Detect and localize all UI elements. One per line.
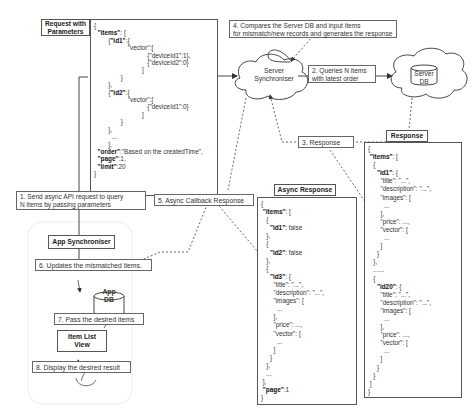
- item-list-line1: Item List: [58, 333, 106, 341]
- request-title-line2: Parameters: [42, 28, 89, 36]
- server-synchroniser: Server Synchroniser: [246, 67, 302, 83]
- code-line: ...: [261, 338, 356, 346]
- item-list-line2: View: [58, 341, 106, 349]
- step3-text: 3. Response: [302, 139, 340, 146]
- response-title-text: Response: [391, 132, 423, 139]
- app-sync-text: App Synchroniser: [52, 238, 111, 245]
- code-line: {"id1":{: [94, 37, 217, 44]
- code-line: ]: [368, 242, 461, 250]
- async-response-title-text: Async Response: [278, 186, 333, 193]
- request-title-line1: Request with: [42, 20, 89, 28]
- code-line: {"id2":{: [94, 89, 217, 96]
- code-line: "items": [: [94, 29, 217, 36]
- step7-label: 7. Pass the desired items: [54, 313, 144, 325]
- code-line: },: [94, 126, 217, 133]
- code-line: "id1": {: [368, 169, 461, 177]
- code-line: ]: [368, 380, 461, 388]
- code-line: "description": "...",: [261, 289, 356, 297]
- code-line: }: [94, 170, 217, 177]
- code-line: {: [368, 145, 461, 153]
- code-line: },: [94, 81, 217, 88]
- step2-line1: 2. Queries N items: [312, 67, 372, 75]
- code-line: },: [261, 362, 356, 370]
- code-line: ]: [368, 355, 461, 363]
- code-line: },: [261, 232, 356, 240]
- code-line: {: [261, 240, 356, 248]
- code-line: }: [94, 74, 217, 81]
- code-line: }: [368, 388, 461, 396]
- code-line: "limit":20: [94, 163, 217, 170]
- code-line: {"deviceId2":0}: [94, 59, 217, 66]
- step2-line2: with latest order: [312, 75, 372, 83]
- code-line: "price": ...,: [368, 218, 461, 226]
- code-line: ...: [368, 202, 461, 210]
- step8-text: 8. Display the desired result: [36, 364, 120, 371]
- step4-line2: for mismatch/new records and generates t…: [233, 30, 393, 38]
- code-line: {: [261, 216, 356, 224]
- code-line: "id20": {: [368, 283, 461, 291]
- code-line: {"deviceId1":1},: [94, 52, 217, 59]
- async-response-title: Async Response: [274, 184, 336, 196]
- code-line: "description": "...",: [368, 299, 461, 307]
- code-line: ],: [94, 141, 217, 148]
- step5-text: 5. Async Callback Response: [158, 197, 244, 204]
- code-line: "vector":[: [94, 44, 217, 51]
- code-line: },: [261, 257, 356, 265]
- code-line: {: [368, 161, 461, 169]
- code-line: }: [368, 250, 461, 258]
- code-line: ],: [368, 210, 461, 218]
- code-line: "images": [: [368, 194, 461, 202]
- code-line: {: [261, 265, 356, 273]
- step8-label: 8. Display the desired result: [32, 361, 131, 373]
- server-db: Server DB: [410, 70, 438, 85]
- step5-label: 5. Async Callback Response: [154, 194, 254, 206]
- response-json-box: { "items": [ { "id1": { "title": "...", …: [364, 142, 462, 398]
- code-line: "vector": [: [368, 226, 461, 234]
- code-line: "price": ...,: [368, 331, 461, 339]
- item-list-view: Item List View: [57, 330, 107, 352]
- code-line: "title": "...",: [261, 281, 356, 289]
- code-line: ...: [261, 370, 356, 378]
- step3-label: 3. Response: [298, 136, 354, 148]
- server-db-line1: Server: [410, 70, 438, 78]
- code-line: "id3": {: [261, 273, 356, 281]
- code-line: },: [368, 258, 461, 266]
- app-db: App DB: [94, 288, 124, 304]
- request-json-code: { "items": [ {"id1":{ "vector":[ {"devic…: [94, 22, 217, 178]
- code-line: ]: [94, 66, 217, 73]
- code-line: }: [261, 394, 356, 402]
- code-line: ...: [94, 133, 217, 140]
- server-sync-line2: Synchroniser: [246, 75, 302, 83]
- code-line: "images": [: [368, 307, 461, 315]
- code-line: ...: [368, 315, 461, 323]
- code-line: ],: [368, 323, 461, 331]
- step7-text: 7. Pass the desired items: [58, 316, 134, 323]
- server-db-line2: DB: [410, 78, 438, 86]
- code-line: {"deviceId1":0}: [94, 103, 217, 110]
- code-line: "items": [: [261, 208, 356, 216]
- code-line: "page":1: [261, 386, 356, 394]
- step4-label: 4. Compares the Server DB and input item…: [229, 20, 397, 38]
- code-line: {: [94, 22, 217, 29]
- code-line: }: [261, 354, 356, 362]
- code-line: }: [94, 118, 217, 125]
- code-line: }: [368, 364, 461, 372]
- code-line: ],: [261, 313, 356, 321]
- step2-label: 2. Queries N items with latest order: [308, 65, 376, 83]
- code-line: "vector":[: [94, 96, 217, 103]
- code-line: "page":1,: [94, 155, 217, 162]
- request-json-box: { "items": [ {"id1":{ "vector":[ {"devic…: [90, 19, 218, 196]
- code-line: "title": "...",: [368, 177, 461, 185]
- code-line: ],: [261, 378, 356, 386]
- step1-label: 1. Send async API request to query N ite…: [16, 191, 146, 210]
- step6-label: 6. Updates the mismatched items.: [35, 259, 152, 271]
- code-line: ]: [261, 346, 356, 354]
- code-line: "id1": false: [261, 224, 356, 232]
- response-title: Response: [386, 130, 428, 142]
- response-json-code: { "items": [ { "id1": { "title": "...", …: [368, 145, 461, 396]
- code-line: "title": "...",: [368, 291, 461, 299]
- step4-line1: 4. Compares the Server DB and input item…: [233, 22, 393, 30]
- code-line: "description": "...",: [368, 185, 461, 193]
- code-line: ...: [368, 234, 461, 242]
- step1-line1: 1. Send async API request to query: [20, 193, 142, 201]
